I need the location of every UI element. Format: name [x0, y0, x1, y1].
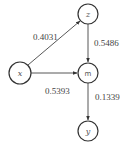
node-z: z [78, 4, 98, 24]
path-diagram: 0.4031 0.5486 0.5393 0.1339 z x m y [0, 0, 128, 149]
node-x: x [9, 62, 31, 84]
edge-x-to-m: 0.5393 [31, 73, 77, 96]
edge-arrow-x-z [28, 21, 80, 65]
node-m: m [78, 63, 98, 83]
edge-label-x-z: 0.4031 [33, 32, 58, 42]
node-y-label: y [85, 127, 91, 136]
edge-label-x-m: 0.5393 [45, 86, 70, 96]
edge-label-m-y: 0.1339 [95, 92, 120, 102]
edge-z-to-m: 0.5486 [88, 24, 119, 62]
edge-label-z-m: 0.5486 [94, 38, 119, 48]
node-x-label: x [18, 69, 23, 78]
node-m-label: m [85, 70, 92, 78]
edge-x-to-z: 0.4031 [28, 21, 80, 65]
node-y: y [78, 121, 98, 141]
node-z-label: z [85, 10, 91, 19]
edge-m-to-y: 0.1339 [88, 83, 120, 120]
